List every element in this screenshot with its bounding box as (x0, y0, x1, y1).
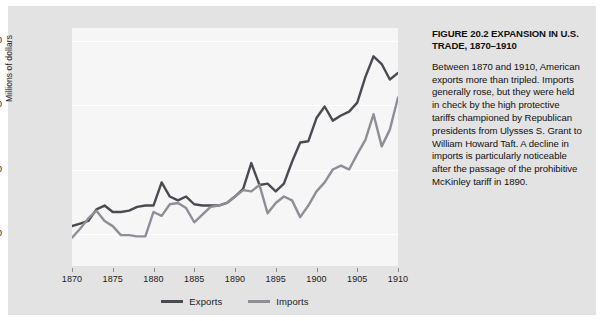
legend-label: Imports (276, 296, 308, 307)
x-tick-mark (113, 268, 114, 272)
series-line-imports (72, 97, 398, 237)
y-axis-title: Millions of dollars (4, 0, 14, 102)
series-plot (72, 28, 398, 266)
chart-region: Millions of dollars 5001,0001,5002,000 1… (8, 6, 420, 315)
legend-swatch-icon (161, 300, 183, 303)
x-tick-mark (276, 268, 277, 272)
caption-panel: FIGURE 20.2 EXPANSION IN U.S. TRADE, 187… (420, 6, 596, 315)
legend-label: Exports (189, 296, 222, 307)
legend-swatch-icon (248, 300, 270, 303)
x-tick-mark (235, 268, 236, 272)
figure-caption-body: Between 1870 and 1910, American exports … (432, 61, 584, 189)
x-tick-label: 1905 (337, 274, 377, 284)
x-tick-label: 1910 (378, 274, 418, 284)
x-tick-label: 1900 (297, 274, 337, 284)
legend-entry-exports: Exports (161, 296, 222, 307)
x-tick-mark (398, 268, 399, 272)
x-tick-label: 1890 (215, 274, 255, 284)
x-tick-label: 1870 (52, 274, 92, 284)
plot-area (72, 28, 398, 266)
y-tick-label: 500 (0, 228, 2, 238)
y-tick-label: 1,500 (0, 99, 2, 109)
x-tick-label: 1875 (93, 274, 133, 284)
x-tick-mark (72, 268, 73, 272)
figure-caption-title: FIGURE 20.2 EXPANSION IN U.S. TRADE, 187… (432, 28, 584, 53)
x-tick-label: 1880 (134, 274, 174, 284)
chart-legend: ExportsImports (72, 296, 398, 307)
series-line-exports (72, 56, 398, 226)
x-tick-label: 1895 (256, 274, 296, 284)
y-tick-label: 1,000 (0, 164, 2, 174)
x-tick-mark (194, 268, 195, 272)
x-tick-mark (154, 268, 155, 272)
legend-entry-imports: Imports (248, 296, 308, 307)
y-tick-label: 2,000 (0, 35, 2, 45)
x-tick-label: 1885 (174, 274, 214, 284)
x-tick-mark (317, 268, 318, 272)
figure-card: Millions of dollars 5001,0001,5002,000 1… (8, 6, 596, 315)
x-tick-mark (357, 268, 358, 272)
